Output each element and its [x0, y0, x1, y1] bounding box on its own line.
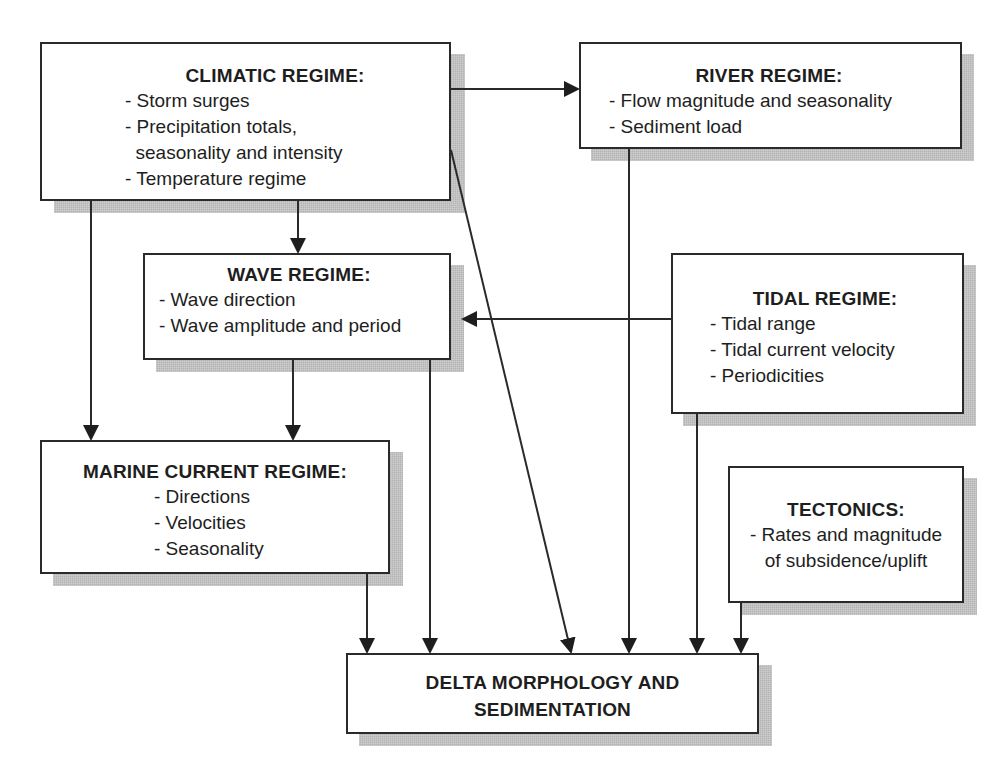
wave-item: - Wave direction: [159, 287, 439, 313]
marine-item: - Directions: [154, 484, 388, 510]
wave-regime-title: WAVE REGIME:: [159, 263, 439, 287]
climatic-item: - Storm surges: [125, 88, 425, 114]
tectonics-item: of subsidence/uplift: [730, 548, 962, 574]
tectonics-item: - Rates and magnitude: [730, 522, 962, 548]
climatic-item: - Temperature regime: [125, 166, 425, 192]
river-item: - Sediment load: [609, 114, 929, 140]
delta-title-line: SEDIMENTATION: [348, 696, 757, 723]
tidal-item: - Periodicities: [710, 363, 940, 389]
river-item: - Flow magnitude and seasonality: [609, 88, 929, 114]
marine-item: - Seasonality: [154, 536, 388, 562]
wave-regime-box: WAVE REGIME: - Wave direction - Wave amp…: [143, 253, 451, 360]
river-regime-box: RIVER REGIME: - Flow magnitude and seaso…: [579, 42, 962, 149]
tidal-regime-title: TIDAL REGIME:: [710, 287, 940, 311]
climatic-item: - Precipitation totals,: [125, 114, 425, 140]
climatic-regime-box: CLIMATIC REGIME: - Storm surges - Precip…: [40, 42, 451, 201]
arrow-climatic-to-delta: [451, 150, 571, 652]
marine-current-regime-title: MARINE CURRENT REGIME:: [42, 460, 388, 484]
tidal-item: - Tidal range: [710, 311, 940, 337]
climatic-item: seasonality and intensity: [125, 140, 425, 166]
river-regime-title: RIVER REGIME:: [609, 64, 929, 88]
delta-title-line: DELTA MORPHOLOGY AND: [348, 669, 757, 696]
marine-item: - Velocities: [154, 510, 388, 536]
wave-item: - Wave amplitude and period: [159, 313, 439, 339]
tidal-regime-box: TIDAL REGIME: - Tidal range - Tidal curr…: [671, 253, 964, 414]
tectonics-title: TECTONICS:: [730, 498, 962, 522]
climatic-regime-title: CLIMATIC REGIME:: [125, 64, 425, 88]
marine-current-regime-box: MARINE CURRENT REGIME: - Directions - Ve…: [40, 440, 390, 574]
tidal-item: - Tidal current velocity: [710, 337, 940, 363]
delta-morphology-box: DELTA MORPHOLOGY AND SEDIMENTATION: [346, 653, 759, 734]
tectonics-box: TECTONICS: - Rates and magnitude of subs…: [728, 466, 964, 603]
